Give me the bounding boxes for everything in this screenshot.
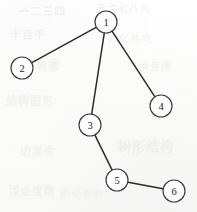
graph-edge-3-5 (95, 135, 112, 170)
graph-node-2[interactable]: 2 (11, 57, 33, 79)
graph-node-3[interactable]: 3 (79, 114, 101, 136)
node-label-2: 2 (19, 63, 24, 74)
graph-edge-1-4 (112, 31, 155, 96)
node-label-4: 4 (158, 101, 164, 112)
graph-svg: 123456 (0, 0, 197, 212)
graph-node-1[interactable]: 1 (95, 11, 117, 33)
node-label-3: 3 (87, 120, 92, 131)
node-label-1: 1 (103, 17, 108, 28)
diagram-canvas: 一二三四五六七八九十百千万亿兆兆图表数据节点连接结构图形树形结构边集合顶点度数图… (0, 0, 197, 212)
graph-node-6[interactable]: 6 (163, 180, 185, 202)
node-label-6: 6 (171, 186, 176, 197)
node-label-5: 5 (114, 175, 119, 186)
nodes-group: 123456 (11, 11, 185, 202)
graph-edge-1-3 (92, 33, 105, 114)
graph-edge-1-2 (32, 27, 96, 62)
graph-node-5[interactable]: 5 (106, 169, 128, 191)
edges-group (32, 27, 163, 188)
graph-node-4[interactable]: 4 (150, 95, 172, 117)
graph-edge-5-6 (128, 182, 163, 189)
